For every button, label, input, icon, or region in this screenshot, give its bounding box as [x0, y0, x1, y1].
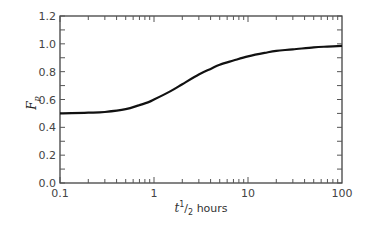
plot-frame — [60, 16, 342, 183]
x-axis-tick-labels: 0.1110100 — [51, 187, 352, 200]
y-axis-tick-labels: 0.00.20.40.60.81.01.2 — [39, 10, 57, 190]
y-tick-label: 0.6 — [39, 94, 57, 107]
chart: 0.00.20.40.60.81.01.2 0.1110100 Fp t1/2 … — [0, 0, 368, 225]
y-tick-label: 0.4 — [39, 121, 57, 134]
y-tick-label: 0.2 — [39, 149, 57, 162]
data-series-line — [60, 46, 342, 114]
y-axis-title: Fp — [25, 96, 41, 110]
y-axis-ticks — [60, 16, 342, 183]
y-tick-label: 1.0 — [39, 38, 57, 51]
x-tick-label: 100 — [332, 187, 353, 200]
y-tick-label: 0.8 — [39, 66, 57, 79]
y-tick-label: 1.2 — [39, 10, 57, 23]
x-tick-label: 1 — [151, 187, 158, 200]
x-axis-title: t1/2 hours — [174, 200, 227, 217]
x-tick-label: 0.1 — [51, 187, 69, 200]
x-tick-label: 10 — [241, 187, 255, 200]
x-axis-ticks — [60, 16, 338, 183]
